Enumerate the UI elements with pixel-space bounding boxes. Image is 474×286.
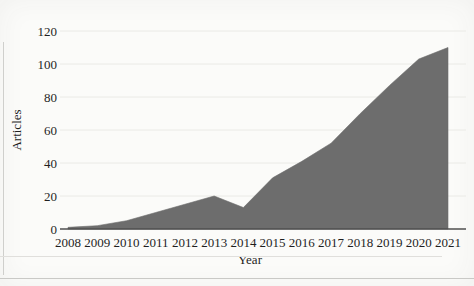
y-axis-tick-label: 60: [44, 123, 57, 138]
x-axis-tick-label: 2018: [347, 235, 373, 250]
x-axis-title: Year: [238, 252, 263, 267]
x-axis-tick-label: 2014: [230, 235, 257, 250]
x-axis-tick-label: 2012: [172, 235, 198, 250]
x-axis-tick-label: 2015: [260, 235, 286, 250]
y-axis-tick-label: 20: [44, 189, 57, 204]
y-axis-tick-label: 80: [44, 90, 57, 105]
x-axis-tick-label: 2010: [113, 235, 139, 250]
x-axis-tick-label: 2009: [84, 235, 110, 250]
scanned-figure: 0204060801001202008200920102011201220132…: [0, 0, 474, 286]
area-series: [68, 48, 448, 230]
scan-artifact-mid-line: [0, 256, 442, 257]
x-axis-tick-label: 2017: [318, 235, 345, 250]
scan-artifact-left-line: [3, 42, 4, 275]
x-axis-tick-label: 2011: [143, 235, 169, 250]
y-axis-tick-label: 100: [38, 57, 58, 72]
x-axis-tick-label: 2021: [435, 235, 461, 250]
y-axis-tick-label: 40: [44, 156, 57, 171]
x-axis-tick-label: 2016: [289, 235, 316, 250]
x-axis-tick-label: 2019: [377, 235, 403, 250]
y-axis-tick-label: 120: [38, 24, 58, 39]
x-axis-tick-label: 2020: [406, 235, 432, 250]
x-axis-tick-label: 2013: [201, 235, 227, 250]
scan-artifact-bottom-line: [0, 278, 474, 279]
x-axis-tick-label: 2008: [55, 235, 81, 250]
area-chart: 0204060801001202008200920102011201220132…: [0, 0, 474, 286]
y-axis-title: Articles: [9, 109, 24, 150]
